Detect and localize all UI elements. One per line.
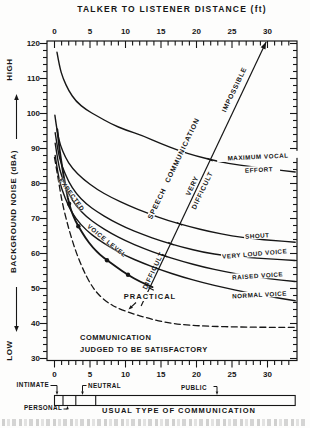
x-tick-label-top: 25	[222, 27, 242, 36]
y-axis-title: BACKGROUND NOISE (dBA)	[9, 137, 18, 287]
y-tick-label: 60	[10, 249, 40, 258]
x-tick-label-top: 10	[116, 27, 136, 36]
y-tick-label: 100	[10, 109, 40, 118]
public-segment-label: PUBLIC	[181, 384, 207, 391]
x-tick-label-top: 15	[151, 27, 171, 36]
y-tick-label: 80	[10, 179, 40, 188]
x-tick-label-bottom: 0	[45, 370, 65, 379]
x-tick-label-bottom: 25	[222, 370, 242, 379]
top-axis-title: TALKER TO LISTENER DISTANCE (ft)	[58, 4, 286, 14]
cropped-caption-remnant	[2, 419, 308, 426]
y-tick-label: 50	[10, 284, 40, 293]
y-tick-label: 30	[10, 354, 40, 363]
x-tick-label-top: 0	[45, 27, 65, 36]
x-tick-label-bottom: 30	[258, 370, 278, 379]
neutral-segment-label: NEUTRAL	[88, 382, 121, 389]
satisfactory-line1: COMMUNICATION	[80, 332, 208, 344]
y-tick-label: 90	[10, 144, 40, 153]
x-tick-label-bottom: 15	[151, 370, 171, 379]
x-tick-label-bottom: 5	[80, 370, 100, 379]
x-tick-label-top: 20	[187, 27, 207, 36]
x-tick-label-bottom: 20	[187, 370, 207, 379]
x-tick-label-bottom: 10	[116, 370, 136, 379]
x-tick-label-top: 5	[80, 27, 100, 36]
satisfactory-line2: JUDGED TO BE SATISFACTORY	[80, 344, 208, 356]
practical-label: PRACTICAL	[114, 292, 186, 301]
y-tick-label: 120	[10, 39, 40, 48]
y-tick-label: 70	[10, 214, 40, 223]
y-tick-label: 40	[10, 319, 40, 328]
intimate-segment-label: INTIMATE	[4, 381, 49, 388]
y-tick-label: 110	[10, 74, 40, 83]
personal-segment-label: PERSONAL	[24, 404, 62, 411]
communication-bar-caption: USUAL TYPE OF COMMUNICATION	[98, 406, 260, 415]
x-tick-label-top: 30	[258, 27, 278, 36]
speech-communication-figure: TALKER TO LISTENER DISTANCE (ft) HIGH BA…	[0, 0, 310, 428]
satisfactory-region-label: COMMUNICATION JUDGED TO BE SATISFACTORY	[80, 332, 208, 355]
